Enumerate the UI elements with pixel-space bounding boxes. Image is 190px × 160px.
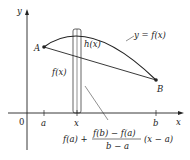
h-label: h(x) [84,39,101,49]
y-axis-label: y [16,6,22,16]
curve-label-leader [126,36,134,41]
y-axis-arrow-icon [25,9,29,15]
formula-numerator: f(b) − f(a) [92,128,136,138]
point-B [154,78,158,82]
curve-label: y = f(x) [133,30,166,40]
formula-tail: (x − a) [144,134,173,144]
tick-label-b: b [153,118,158,128]
secant-formula: f(a) + f(b) − f(a) b − a (x − a) [62,128,173,151]
point-B-label: B [156,84,163,94]
x-axis-arrow-icon [178,111,184,115]
point-A [42,45,46,49]
formula-lead: f(a) + [62,134,88,144]
mvt-diagram: y x 0 a x b A B y = f(x) h(x) f(x) f(a) … [0,0,190,160]
f-label: f(x) [51,67,67,77]
tick-label-a: a [41,118,46,128]
tick-label-x: x [74,118,79,128]
formula-leader [85,86,108,120]
formula-denominator: b − a [106,141,129,151]
point-A-label: A [33,43,40,53]
x-axis-label: x [176,117,181,127]
origin-label: 0 [19,117,24,127]
